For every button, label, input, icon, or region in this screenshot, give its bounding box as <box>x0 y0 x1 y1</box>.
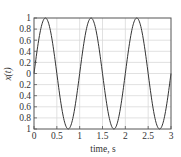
y-tick-label: 1 <box>26 13 31 23</box>
y-tick-label: 0.6 <box>19 36 31 46</box>
x-axis-ticks: 00.511.522.53 <box>32 126 174 141</box>
y-tick-label: 0.4 <box>19 47 31 57</box>
y-tick-label: 0.2 <box>19 80 31 90</box>
y-tick-label: 0 <box>26 69 31 79</box>
x-tick-label: 0.5 <box>51 131 63 141</box>
x-tick-label: 1 <box>77 131 82 141</box>
x-tick-label: 3 <box>169 131 174 141</box>
y-tick-label: 0.8 <box>19 113 31 123</box>
x-tick-label: 2.5 <box>142 131 154 141</box>
y-tick-label: 0.4 <box>19 91 31 101</box>
y-tick-label: 0.2 <box>19 58 31 68</box>
x-tick-label: 0 <box>32 131 37 141</box>
x-axis-label: time, s <box>90 144 116 154</box>
y-tick-label: 0.6 <box>19 102 31 112</box>
chart: 10.80.60.40.200.20.40.60.81 00.511.522.5… <box>0 0 181 157</box>
y-tick-label: 0.8 <box>19 24 31 34</box>
line-chart: 10.80.60.40.200.20.40.60.81 00.511.522.5… <box>0 0 181 157</box>
y-axis-label: x(t) <box>3 67 14 81</box>
y-tick-label: 1 <box>26 124 31 134</box>
x-tick-label: 2 <box>123 131 128 141</box>
x-tick-label: 1.5 <box>97 131 109 141</box>
